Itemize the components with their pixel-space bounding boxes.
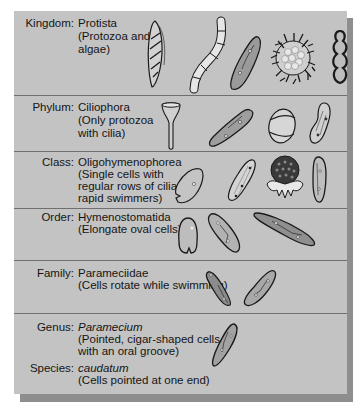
rank-label: Class: [14, 156, 74, 169]
row-genus-species: Genus: Paramecium (Pointed, cigar-shaped… [14, 314, 347, 394]
row-order: Order: Hymenostomatida (Elongate oval ce… [14, 209, 347, 261]
taxon-description: with cilia) [78, 127, 125, 140]
wavy-amoeba-icon [330, 29, 350, 87]
taxon-description: (Only protozoa [78, 114, 153, 127]
paramecium-icon [204, 269, 234, 309]
taxon-description: (Protozoa and [78, 30, 150, 43]
vorticella-bell-icon [263, 154, 307, 200]
row-kingdom: Kingdom: Protista (Protozoa and algae) [14, 11, 347, 96]
taxon-description: with an oral groove) [78, 345, 179, 358]
banded-ciliate-icon [266, 106, 298, 146]
paramecium-icon [206, 211, 242, 257]
rank-label: Order: [14, 211, 74, 224]
taxon-description: algae) [78, 43, 110, 56]
paramecium-caudatum-icon [210, 322, 240, 368]
euglenoid-cell-icon [142, 19, 172, 89]
slipper-ciliate-icon [310, 155, 330, 205]
paramecium-icon [228, 33, 264, 93]
rank-label: Genus: [14, 321, 74, 334]
row-phylum: Phylum: Ciliophora (Only protozoa with c… [14, 96, 347, 152]
taxon-name: Protista [78, 17, 117, 30]
oval-cell-icon [176, 216, 200, 256]
stentor-funnel-icon [160, 101, 182, 151]
filamentous-alga-icon [186, 19, 230, 91]
row-class: Class: Oligohymenophorea (Single cells w… [14, 152, 347, 209]
taxon-description: rapid swimmers) [78, 192, 162, 205]
notched-ciliate-icon [172, 166, 206, 206]
rank-label: Species: [14, 362, 74, 375]
paramecium-icon [242, 269, 278, 309]
taxon-name: Ciliophora [78, 101, 130, 114]
rank-label: Kingdom: [14, 17, 74, 30]
curved-ciliate-icon [308, 101, 332, 147]
rank-label: Phylum: [14, 101, 74, 114]
paramecium-icon [206, 106, 256, 150]
row-family: Family: Parameciidae (Cells rotate while… [14, 261, 347, 314]
tetrahymena-icon [226, 158, 258, 204]
taxon-description: (Cells pointed at one end) [78, 374, 210, 387]
taxon-description: (Elongate oval cells) [78, 223, 182, 236]
classification-panel: Kingdom: Protista (Protozoa and algae) [14, 11, 347, 394]
elongate-paramecium-icon [252, 211, 318, 249]
radiolarian-icon [268, 31, 318, 85]
rank-label: Family: [14, 267, 74, 280]
